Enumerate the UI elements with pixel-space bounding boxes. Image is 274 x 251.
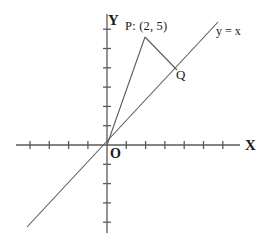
axis-label-x: X [245,138,256,153]
line-y-equals-x [27,22,218,227]
geometry-figure: Y X O P: (2, 5) Q y = x [0,0,274,251]
origin-label: O [110,147,121,161]
point-p-label: P: (2, 5) [125,20,167,33]
line-equation-label: y = x [216,25,241,37]
axis-label-y: Y [108,13,119,28]
segment-origin-to-p [107,37,145,145]
axis-x-group [16,141,240,149]
axis-y-group [103,14,111,233]
segment-p-to-q [145,37,177,70]
point-q-label: Q [176,68,185,81]
